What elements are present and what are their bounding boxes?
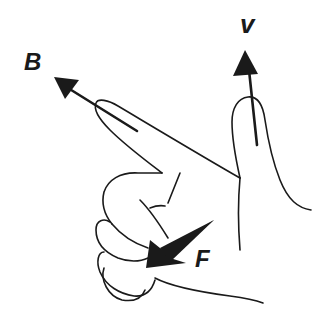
b-field-arrow — [54, 77, 137, 131]
index-finger-outline — [95, 100, 240, 178]
palm-edge — [239, 178, 241, 250]
middle-finger-outline — [232, 97, 311, 210]
crease-1 — [168, 173, 180, 203]
curled-finger-2 — [96, 220, 148, 261]
crease-3 — [150, 206, 165, 208]
hand-illustration — [0, 0, 325, 322]
b-field-label: B — [24, 50, 41, 74]
curled-finger-1 — [112, 224, 148, 248]
left-hand-rule-diagram: B v F — [0, 0, 325, 322]
force-label: F — [195, 247, 210, 271]
velocity-label: v — [240, 12, 254, 36]
wrist-line — [155, 278, 263, 303]
